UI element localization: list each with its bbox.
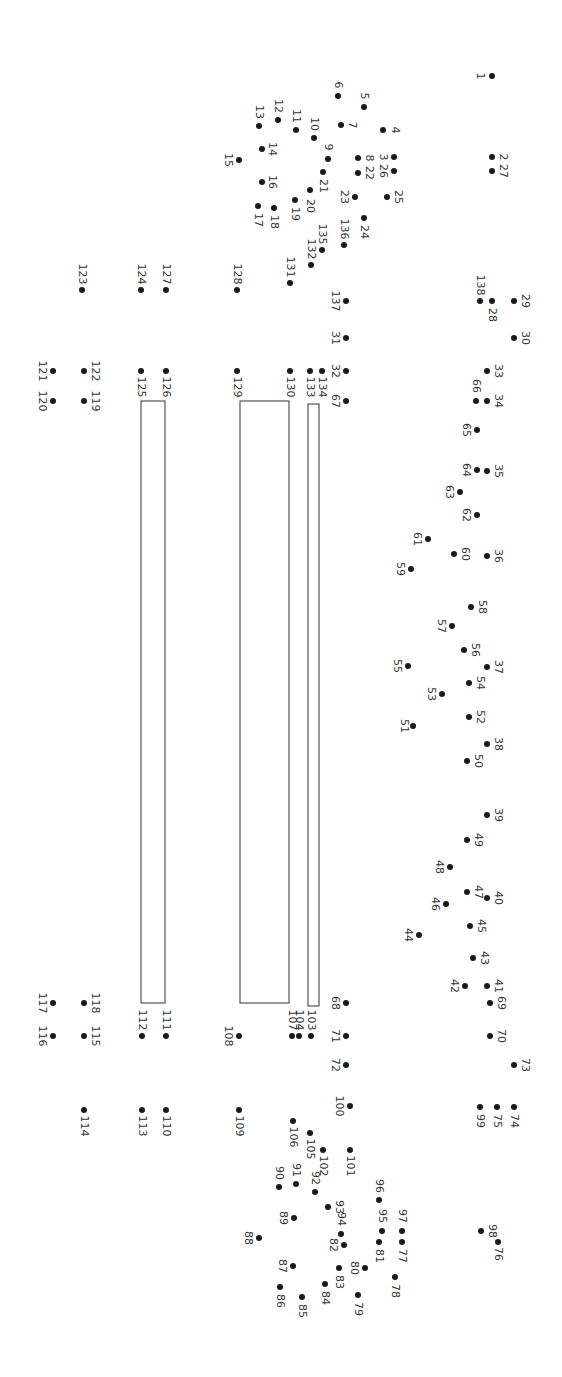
dot-59[interactable]: 59 [394,562,415,576]
dot-77[interactable]: 77 [396,1239,409,1263]
dot-81[interactable]: 81 [373,1239,386,1263]
dot-marker[interactable] [489,73,495,79]
dot-marker[interactable] [292,197,298,203]
dot-marker[interactable] [319,247,325,253]
dot-70[interactable]: 70 [487,1029,508,1043]
dot-marker[interactable] [307,1130,313,1136]
dot-60[interactable]: 60 [451,547,472,561]
dot-marker[interactable] [399,1239,405,1245]
dot-74[interactable]: 74 [508,1104,521,1128]
dot-129[interactable]: 129 [231,368,244,398]
dot-136[interactable]: 136 [338,219,351,249]
dot-marker[interactable] [336,1265,342,1271]
dot-65[interactable]: 65 [460,423,481,437]
dot-marker[interactable] [322,1281,328,1287]
dot-88[interactable]: 88 [242,1231,263,1245]
dot-97[interactable]: 97 [396,1209,409,1234]
dot-marker[interactable] [379,1228,385,1234]
dot-marker[interactable] [311,135,317,141]
dot-35[interactable]: 35 [484,464,505,478]
dot-123[interactable]: 123 [76,264,89,294]
dot-52[interactable]: 52 [466,710,487,724]
dot-90[interactable]: 90 [273,1166,286,1190]
dot-116[interactable]: 116 [36,1026,57,1047]
dot-marker[interactable] [338,122,344,128]
dot-75[interactable]: 75 [491,1104,504,1128]
dot-33[interactable]: 33 [484,364,505,378]
dot-99[interactable]: 99 [474,1104,487,1128]
dot-127[interactable]: 127 [160,264,173,294]
dot-marker[interactable] [392,1274,398,1280]
dot-53[interactable]: 53 [425,687,446,701]
dot-marker[interactable] [308,1033,314,1039]
dot-marker[interactable] [484,983,490,989]
dot-marker[interactable] [484,664,490,670]
dot-marker[interactable] [343,335,349,341]
dot-10[interactable]: 10 [308,117,321,141]
dot-marker[interactable] [307,368,313,374]
dot-122[interactable]: 122 [81,361,102,382]
dot-marker[interactable] [256,123,262,129]
dot-114[interactable]: 114 [78,1107,91,1137]
dot-marker[interactable] [511,1062,517,1068]
dot-50[interactable]: 50 [464,754,485,768]
dot-marker[interactable] [341,1242,347,1248]
dot-marker[interactable] [325,156,331,162]
dot-marker[interactable] [163,368,169,374]
dot-marker[interactable] [489,168,495,174]
dot-25[interactable]: 25 [384,190,405,204]
dot-131[interactable]: 131 [284,257,297,287]
dot-61[interactable]: 61 [411,532,432,546]
dot-87[interactable]: 87 [276,1259,297,1273]
dot-marker[interactable] [81,398,87,404]
dot-67[interactable]: 67 [329,394,350,408]
dot-2[interactable]: 2 [489,154,510,161]
dot-marker[interactable] [464,837,470,843]
dot-21[interactable]: 21 [317,169,330,193]
dot-marker[interactable] [443,901,449,907]
dot-marker[interactable] [291,1215,297,1221]
dot-44[interactable]: 44 [402,928,423,942]
dot-marker[interactable] [474,427,480,433]
dot-marker[interactable] [391,168,397,174]
dot-79[interactable]: 79 [352,1292,365,1316]
dot-14[interactable]: 14 [259,142,279,156]
dot-32[interactable]: 32 [329,364,350,378]
dot-marker[interactable] [325,1204,331,1210]
dot-marker[interactable] [399,1228,405,1234]
dot-111[interactable]: 111 [160,1010,173,1040]
dot-marker[interactable] [466,680,472,686]
dot-marker[interactable] [484,741,490,747]
dot-marker[interactable] [352,194,358,200]
dot-marker[interactable] [384,194,390,200]
dot-marker[interactable] [50,1000,56,1006]
dot-63[interactable]: 63 [443,485,464,499]
dot-marker[interactable] [487,1033,493,1039]
dot-marker[interactable] [293,1181,299,1187]
dot-98[interactable]: 98 [478,1224,499,1238]
dot-115[interactable]: 115 [81,1026,102,1047]
dot-marker[interactable] [236,1107,242,1113]
dot-marker[interactable] [138,368,144,374]
dot-91[interactable]: 91 [290,1163,303,1187]
dot-marker[interactable] [347,1147,353,1153]
dot-64[interactable]: 64 [460,463,481,477]
dot-130[interactable]: 130 [284,368,297,398]
dot-110[interactable]: 110 [160,1107,173,1137]
dot-137[interactable]: 137 [329,291,350,312]
dot-marker[interactable] [451,551,457,557]
dot-112[interactable]: 112 [136,1010,149,1040]
dot-1[interactable]: 1 [474,73,496,80]
dot-118[interactable]: 118 [81,993,102,1014]
dot-106[interactable]: 106 [287,1118,300,1148]
dot-marker[interactable] [457,489,463,495]
dot-marker[interactable] [361,104,367,110]
dot-marker[interactable] [138,287,144,293]
dot-marker[interactable] [439,691,445,697]
dot-marker[interactable] [256,1235,262,1241]
dot-marker[interactable] [408,566,414,572]
dot-marker[interactable] [511,298,517,304]
dot-marker[interactable] [467,923,473,929]
dot-marker[interactable] [338,1231,344,1237]
dot-marker[interactable] [81,1033,87,1039]
